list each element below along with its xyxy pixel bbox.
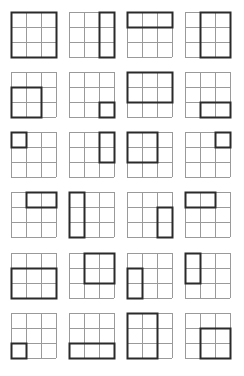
grid-svg	[11, 12, 56, 57]
grid-panel	[127, 132, 172, 177]
grid-svg	[127, 313, 172, 358]
grid-panel	[127, 313, 172, 358]
highlight-rect	[216, 133, 231, 148]
grid-svg	[69, 12, 114, 57]
grid-panel	[127, 253, 172, 298]
grid-svg	[185, 72, 230, 117]
grid-panel	[185, 192, 230, 237]
grid-svg	[69, 253, 114, 298]
grid-panel	[127, 192, 172, 237]
grid-panel	[69, 253, 114, 298]
grid-svg	[185, 253, 230, 298]
grid-panel	[185, 12, 230, 57]
grid-svg	[11, 253, 56, 298]
grid-panel	[69, 132, 114, 177]
highlight-rect	[70, 344, 115, 359]
grid-panel	[11, 132, 56, 177]
grid-svg	[127, 132, 172, 177]
grid-panel	[11, 253, 56, 298]
grid-svg	[127, 12, 172, 57]
grid-panel	[69, 313, 114, 358]
grid-panel	[11, 72, 56, 117]
grid-svg	[185, 192, 230, 237]
grid-panel	[185, 132, 230, 177]
grid-svg	[11, 72, 56, 117]
grid-svg	[69, 192, 114, 237]
highlight-rect	[12, 344, 27, 359]
grid-panel	[69, 72, 114, 117]
grid-svg	[11, 132, 56, 177]
grid-svg	[127, 253, 172, 298]
grid-panel	[11, 12, 56, 57]
highlight-rect	[70, 193, 85, 238]
highlight-rect	[12, 13, 57, 58]
highlight-rect	[100, 103, 115, 118]
grid-svg	[11, 313, 56, 358]
grid-svg	[69, 313, 114, 358]
grid-svg	[127, 72, 172, 117]
grid-panel	[69, 192, 114, 237]
grid-svg	[127, 192, 172, 237]
grid-panel	[11, 313, 56, 358]
grid-panel	[127, 72, 172, 117]
highlight-rect	[100, 13, 115, 58]
grid-panel	[185, 313, 230, 358]
grid-svg	[185, 313, 230, 358]
highlight-rect	[12, 133, 27, 148]
grid-panel	[127, 12, 172, 57]
grid-panel	[69, 12, 114, 57]
grid-svg	[185, 132, 230, 177]
grid-panel	[185, 253, 230, 298]
grid-panel	[11, 192, 56, 237]
grid-panel	[185, 72, 230, 117]
grid-svg	[11, 192, 56, 237]
highlight-rect	[128, 13, 173, 28]
grid-svg	[69, 72, 114, 117]
grid-svg	[185, 12, 230, 57]
grid-svg	[69, 132, 114, 177]
